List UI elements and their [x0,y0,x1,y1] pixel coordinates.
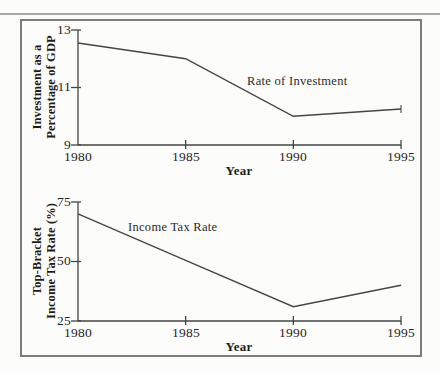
top-chart-y-axis-title: Investment as a Percentage of GDP [30,22,58,152]
top-chart-x-tick-label: 1980 [64,149,92,165]
bottom-chart-y-axis-title: Top-Bracket Income Tax Rate (%) [30,196,58,326]
bottom-chart-y-tick-label: 50 [57,253,71,269]
top-chart-y-tick-label: 13 [57,22,71,38]
top-chart-x-tick-label: 1990 [279,149,307,165]
y-axis-title-line: Top-Bracket [30,196,44,326]
top-chart-y-tick-label: 11 [58,79,71,95]
y-axis-title-line: Investment as a [30,22,44,152]
data-line [78,43,401,116]
bottom-chart-x-tick-label: 1995 [387,325,415,341]
y-axis-title-line: Income Tax Rate (%) [44,196,58,326]
bottom-chart-series-label: Income Tax Rate [128,220,217,235]
data-line [78,214,401,307]
bottom-chart-y-tick-label: 75 [57,194,71,210]
top-chart-series-label: Rate of Investment [247,74,348,89]
bottom-chart-x-tick-label: 1985 [172,325,200,341]
bottom-chart-x-tick-label: 1980 [64,325,92,341]
y-axis-title-line: Percentage of GDP [44,22,58,152]
figure-page: Investment as a Percentage of GDP 13 11 … [0,0,440,372]
bottom-chart-x-tick-label: 1990 [279,325,307,341]
top-chart-x-tick-label: 1995 [387,149,415,165]
bottom-chart-x-axis-title: Year [226,339,253,355]
top-chart-x-axis-title: Year [226,163,253,179]
top-chart-x-tick-label: 1985 [172,149,200,165]
